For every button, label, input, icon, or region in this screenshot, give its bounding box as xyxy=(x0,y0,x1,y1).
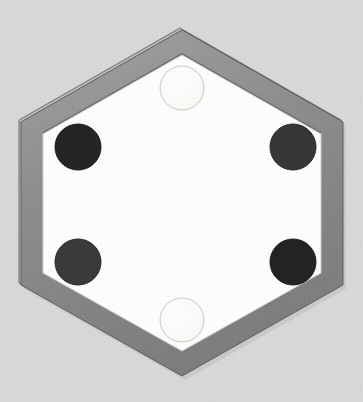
token-upper-left[interactable] xyxy=(55,124,101,170)
token-bottom[interactable] xyxy=(160,298,204,342)
hexagon-scene xyxy=(0,0,363,402)
token-lower-right[interactable] xyxy=(270,239,316,285)
token-upper-right[interactable] xyxy=(270,124,316,170)
scene-canvas xyxy=(0,0,363,402)
token-lower-left[interactable] xyxy=(55,239,101,285)
token-top[interactable] xyxy=(160,66,204,110)
